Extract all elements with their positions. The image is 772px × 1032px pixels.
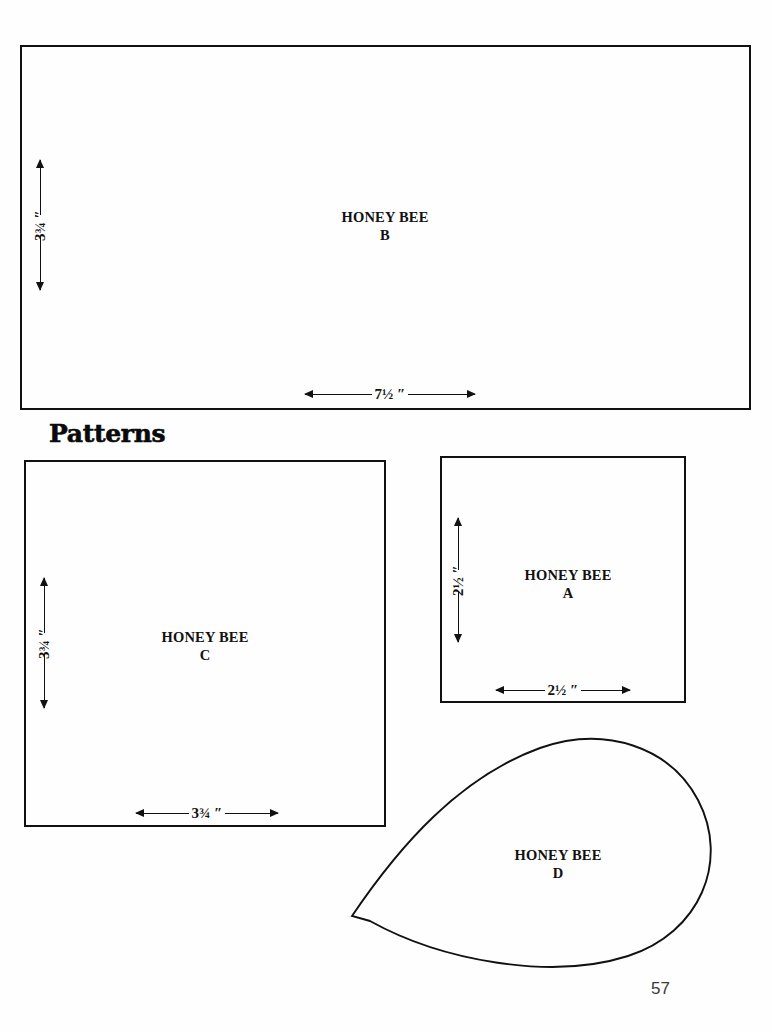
pattern-piece-c-width-value: 3¾ ″ (189, 806, 226, 821)
dimension-arrow-up-icon (458, 518, 459, 570)
pattern-piece-b-width-dimension: 7½ ″ (305, 384, 475, 404)
dimension-arrow-right-icon (581, 690, 630, 691)
pattern-piece-a-letter: A (478, 584, 658, 602)
pattern-piece-a-width-value: 2½ ″ (545, 683, 582, 698)
dimension-arrow-up-icon (40, 160, 41, 215)
dimension-arrow-down-icon (40, 236, 41, 291)
pattern-piece-a-label: HONEY BEE A (478, 566, 658, 602)
dimension-arrow-down-icon (44, 654, 45, 709)
dimension-arrow-right-icon (225, 813, 278, 814)
dimension-arrow-left-icon (305, 394, 372, 395)
pattern-piece-a-width-dimension: 2½ ″ (496, 680, 630, 700)
pattern-piece-a-name: HONEY BEE (524, 567, 611, 583)
dimension-arrow-right-icon (408, 394, 475, 395)
pattern-piece-c-height-dimension: 3¾ ″ (33, 578, 55, 708)
pattern-piece-b-label: HONEY BEE B (270, 208, 500, 244)
dimension-arrow-left-icon (136, 813, 189, 814)
page-number: 57 (651, 979, 670, 999)
pattern-piece-c-letter: C (95, 646, 315, 664)
pattern-piece-b-letter: B (270, 226, 500, 244)
pattern-piece-d-label: HONEY BEE D (468, 846, 648, 882)
dimension-arrow-left-icon (496, 690, 545, 691)
pattern-piece-b-height-dimension: 3¾ ″ (29, 160, 51, 290)
pattern-piece-c-label: HONEY BEE C (95, 628, 315, 664)
pattern-piece-c-name: HONEY BEE (161, 629, 248, 645)
pattern-piece-d-letter: D (468, 864, 648, 882)
pattern-piece-b-width-value: 7½ ″ (372, 387, 409, 402)
pattern-piece-a-height-dimension: 2½ ″ (447, 518, 469, 642)
section-heading-patterns: Patterns (49, 419, 165, 448)
pattern-piece-b-name: HONEY BEE (341, 209, 428, 225)
pattern-piece-c-width-dimension: 3¾ ″ (136, 803, 278, 823)
pattern-piece-d-name: HONEY BEE (514, 847, 601, 863)
pattern-sheet-page: HONEY BEE B 3¾ ″ 7½ ″ Patterns HONEY BEE… (0, 0, 772, 1032)
dimension-arrow-down-icon (458, 591, 459, 643)
dimension-arrow-up-icon (44, 578, 45, 633)
